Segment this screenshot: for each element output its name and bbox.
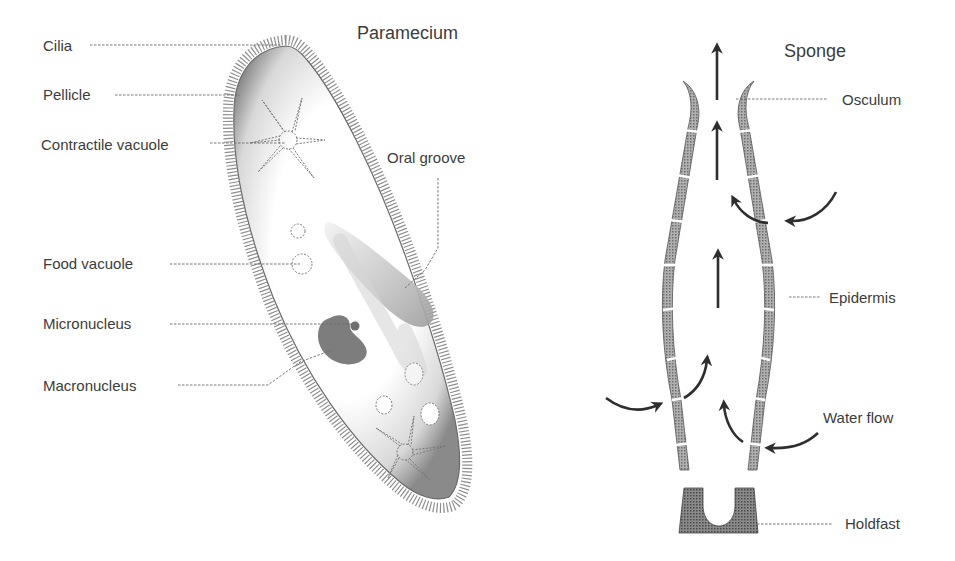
label-holdfast: Holdfast xyxy=(845,516,900,531)
label-water-flow: Water flow xyxy=(823,410,893,425)
water-flow-arrows xyxy=(606,48,836,448)
label-cilia: Cilia xyxy=(43,38,72,53)
holdfast-shape xyxy=(679,488,758,533)
diagram-graphics xyxy=(0,0,955,561)
label-macronucleus: Macronucleus xyxy=(43,378,136,393)
sponge-illustration xyxy=(606,48,836,533)
paramecium-title: Paramecium xyxy=(357,24,458,42)
label-contractile-vacuole: Contractile vacuole xyxy=(41,137,169,152)
label-micronucleus: Micronucleus xyxy=(43,316,131,331)
sponge-title: Sponge xyxy=(784,42,846,60)
label-osculum: Osculum xyxy=(842,92,901,107)
paramecium-illustration xyxy=(90,40,467,508)
micronucleus-shape xyxy=(351,322,360,331)
sponge-wall-right xyxy=(738,81,775,470)
label-food-vacuole: Food vacuole xyxy=(43,256,133,271)
label-oral-groove: Oral groove xyxy=(387,150,465,165)
label-pellicle: Pellicle xyxy=(43,87,91,102)
label-epidermis: Epidermis xyxy=(829,290,896,305)
sponge-wall-left xyxy=(662,81,699,470)
diagram-canvas: Paramecium Cilia Pellicle Contractile va… xyxy=(0,0,955,561)
